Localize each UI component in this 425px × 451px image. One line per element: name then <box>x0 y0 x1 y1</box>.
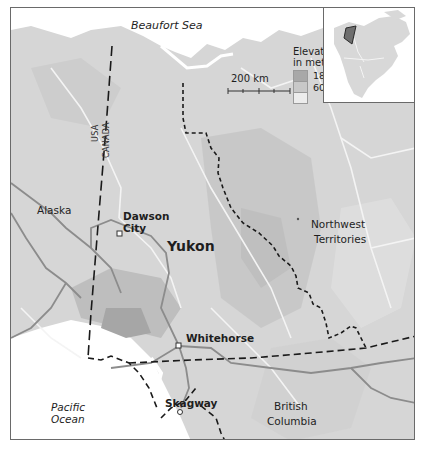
north-america-icon <box>324 8 415 102</box>
dawson-city-marker <box>117 231 122 236</box>
label-alaska: Alaska <box>37 204 71 216</box>
label-northwest-2: Territories <box>314 233 366 245</box>
label-northwest-1: Northwest <box>311 218 365 230</box>
label-skagway: Skagway <box>165 397 217 409</box>
scale-bar-label: 200 km <box>231 73 269 84</box>
label-beaufort-sea: Beaufort Sea <box>131 20 202 32</box>
label-dawson-city-2: City <box>123 222 146 234</box>
label-canada: CANADA <box>102 122 111 158</box>
label-pacific-1: Pacific <box>51 401 85 413</box>
map-frame: Beaufort Sea Alaska Dawson City Yukon No… <box>10 7 415 440</box>
label-british-2: Columbia <box>267 415 317 427</box>
label-pacific-2: Ocean <box>51 413 85 425</box>
label-whitehorse: Whitehorse <box>186 332 254 344</box>
whitehorse-marker <box>176 343 181 348</box>
label-dawson-city-1: Dawson <box>123 210 169 222</box>
label-british-1: British <box>274 400 308 412</box>
locator-inset-map <box>323 8 415 103</box>
skagway-marker <box>178 410 183 415</box>
label-usa: USA <box>91 125 100 142</box>
label-yukon: Yukon <box>167 240 215 252</box>
legend-swatch-low <box>293 92 308 104</box>
